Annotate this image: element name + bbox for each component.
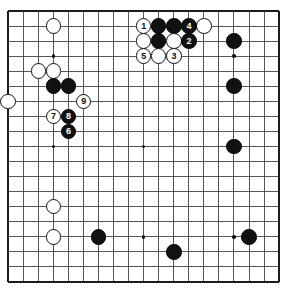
numbered-stone-white[interactable]: 7 <box>46 109 62 125</box>
go-diagram: 978614253 <box>0 0 290 301</box>
stone-move-number: 1 <box>141 21 146 30</box>
stone-white[interactable] <box>31 63 47 79</box>
stone-black[interactable] <box>166 18 182 34</box>
stone-move-number: 7 <box>51 112 56 121</box>
stone-move-number: 4 <box>186 21 191 30</box>
stone-move-number: 8 <box>66 112 71 121</box>
stone-white[interactable] <box>196 18 212 34</box>
stone-black[interactable] <box>91 229 107 245</box>
stone-black[interactable] <box>226 78 242 94</box>
stone-move-number: 9 <box>81 97 86 106</box>
numbered-stone-black[interactable]: 2 <box>181 33 197 49</box>
stone-move-number: 3 <box>171 51 176 60</box>
numbered-stone-white[interactable]: 3 <box>166 48 182 64</box>
stone-move-number: 5 <box>141 51 146 60</box>
stone-black[interactable] <box>226 139 242 155</box>
stone-white[interactable] <box>166 33 182 49</box>
stone-white[interactable] <box>46 229 62 245</box>
stone-white[interactable] <box>0 94 16 110</box>
stone-white[interactable] <box>46 18 62 34</box>
numbered-stone-black[interactable]: 4 <box>181 18 197 34</box>
stone-move-number: 6 <box>66 127 71 136</box>
stone-black[interactable] <box>46 78 62 94</box>
stone-white[interactable] <box>46 63 62 79</box>
stone-black[interactable] <box>166 244 182 260</box>
stone-black[interactable] <box>241 229 257 245</box>
stone-black[interactable] <box>61 78 77 94</box>
stone-move-number: 2 <box>186 36 191 45</box>
stone-black[interactable] <box>226 33 242 49</box>
